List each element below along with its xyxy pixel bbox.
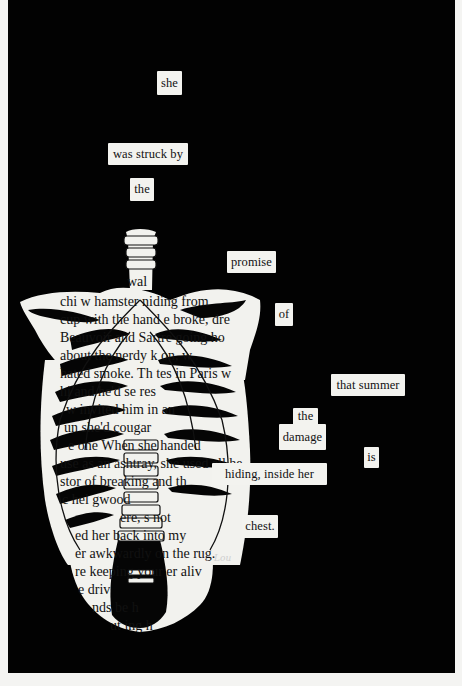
artist-signature: Lou <box>214 553 231 563</box>
book-text-line: hi and he'd se res <box>60 385 156 399</box>
book-text-line: er awkwardly on the rug. <box>75 547 215 561</box>
book-text-line: nds be h <box>92 601 139 615</box>
book-text-line: hated smoke. Th tes in Paris w <box>60 367 231 381</box>
poem-word-that-summer: that summer <box>331 374 405 396</box>
book-text-line: re keeping your er aliv <box>75 565 202 579</box>
book-text-line: about the nerdy k on, w <box>60 349 192 363</box>
poem-word-of: of <box>275 303 293 326</box>
poem-word-the-2: the <box>293 408 318 425</box>
poem-word-hiding-inside-her: hiding, inside her <box>212 463 327 485</box>
book-text-line: un she'd cougar <box>64 421 151 435</box>
poem-word-is: is <box>364 447 379 468</box>
book-text-line: chi w hamster niding from <box>60 295 209 309</box>
book-text-line: wal <box>127 275 147 289</box>
book-text-line: Beauvoir and Sartre going ho <box>60 331 225 345</box>
book-text-line: w invited him in an <box>66 403 175 417</box>
book-text-line: e one When she handed <box>68 439 201 453</box>
poem-word-damage: damage <box>279 424 326 450</box>
poem-word-promise: promise <box>227 251 276 273</box>
book-text-line: ere, s not <box>120 511 171 525</box>
book-text-line: cup with the hand e broke, dre <box>60 313 230 327</box>
poem-word-the: the <box>130 178 154 201</box>
book-text-line: c hel gwood <box>62 493 130 507</box>
book-text-line: stor of breaking and th <box>60 475 187 489</box>
poem-word-she: she <box>157 71 182 95</box>
poem-word-was-struck-by: was struck by <box>108 143 188 165</box>
book-text-line: ed her back into my <box>75 529 186 543</box>
book-text-line: e driv <box>78 583 110 597</box>
poem-word-chest: chest. <box>242 515 278 538</box>
book-text-line: ut ing h <box>110 619 153 633</box>
